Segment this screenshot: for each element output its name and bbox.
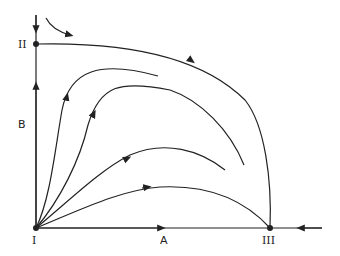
a-axis-label: A <box>160 234 168 247</box>
phase-diagram: II B I A III <box>0 0 340 256</box>
label-I: I <box>32 234 36 247</box>
fixed-point-II <box>33 41 39 47</box>
fixed-point-I <box>33 225 39 231</box>
label-III: III <box>262 234 275 247</box>
label-II: II <box>18 38 27 51</box>
trajectory-2 <box>36 86 244 228</box>
phase-plane-plot <box>0 0 340 256</box>
trajectory-4 <box>36 187 270 228</box>
fixed-point-III <box>267 225 273 231</box>
separatrix <box>36 44 270 228</box>
b-axis-label: B <box>18 118 26 131</box>
